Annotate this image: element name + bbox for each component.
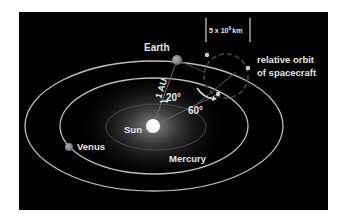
earth [172,55,182,65]
scale-unit: km [232,27,242,34]
spacecraft-dot [246,66,250,70]
mercury-label: Mercury [169,153,207,164]
angle-spacecraft-label: 60° [188,105,203,116]
spacecraft-dot [205,53,209,57]
venus-label: Venus [77,141,105,152]
scale-base: 5 x 10 [209,27,229,34]
scale-exponent: 6 [228,25,231,31]
scale-label: 5 x 106km [209,25,242,34]
spacecraft-dot [216,92,220,96]
sun-label: Sun [124,124,142,135]
venus [65,143,73,151]
relative-orbit-label-line2: of spacecraft [257,67,317,78]
solar-system-diagram: Earth Sun Venus Mercury 1 AU 20° 60° 5 x… [0,0,342,219]
sun [146,119,160,133]
relative-orbit-label-line1: relative orbit [257,54,315,65]
angle-earth-label: 20° [166,92,181,103]
earth-label: Earth [144,42,170,53]
